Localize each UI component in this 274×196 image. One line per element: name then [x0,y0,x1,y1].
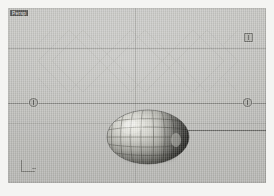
app-root: Persp [0,0,274,196]
render-viewport[interactable]: Persp [8,8,266,183]
diamond-lattice-pattern [38,30,238,92]
handle-top-right[interactable] [244,33,253,42]
grid-line-horizontal-upper [8,48,266,49]
viewport-label[interactable]: Persp [10,10,28,16]
axis-corner-gizmo[interactable] [21,160,35,172]
ellipsoid-object[interactable] [106,109,190,165]
ellipsoid-mesh[interactable] [106,109,190,165]
horizon-line [8,103,266,104]
handle-left[interactable] [29,98,38,107]
handle-right[interactable] [243,98,252,107]
